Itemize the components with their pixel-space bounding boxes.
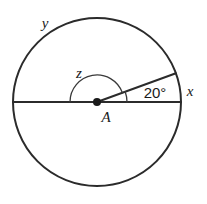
- label-arc-y: y: [40, 15, 49, 31]
- label-angle-measure: 20°: [144, 84, 167, 101]
- label-center-A: A: [100, 109, 111, 125]
- label-arc-x: x: [186, 83, 194, 99]
- circle-diagram-canvas: y z x 20° A: [0, 0, 207, 204]
- label-angle-z: z: [75, 65, 82, 81]
- geometry-diagram: y z x 20° A: [0, 0, 207, 204]
- center-point-dot: [93, 98, 101, 106]
- angle-arc-20deg: [125, 92, 127, 102]
